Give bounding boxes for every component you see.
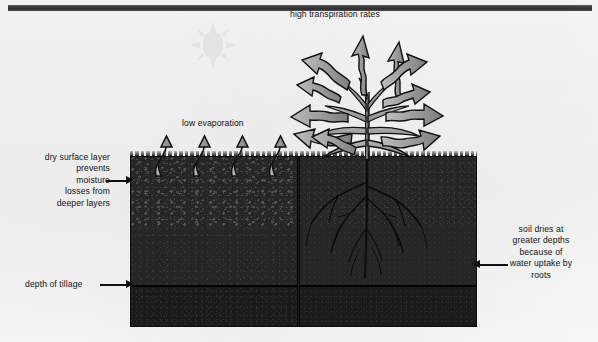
tillage-depth-line	[130, 285, 477, 287]
top-rule	[8, 5, 592, 11]
label-soil-dries-at-depth: soil dries at greater depths because of …	[489, 224, 593, 281]
label-depth-of-tillage: depth of tillage	[25, 279, 83, 290]
plant-icon	[315, 78, 419, 160]
sun-icon	[190, 22, 236, 68]
soil-profile	[130, 156, 477, 327]
label-dry-surface-layer: dry surface layer prevents moisture loss…	[6, 152, 110, 209]
pointer-dry-surface-layer	[106, 175, 134, 187]
subsoil-band	[130, 285, 477, 327]
pointer-depth-of-tillage	[100, 279, 134, 291]
figure-canvas: dry surface layer prevents moisture loss…	[0, 0, 598, 342]
pointer-soil-dries-at-depth	[472, 259, 508, 271]
label-low-evaporation: low evaporation	[182, 118, 244, 129]
soil-surface-edge	[130, 151, 477, 158]
transpiration-arrows	[291, 36, 443, 155]
plot-divider-line	[297, 156, 300, 327]
